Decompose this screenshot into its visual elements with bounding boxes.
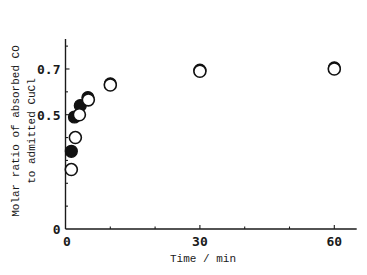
- y-tick-label: 0.7: [37, 62, 60, 77]
- open-circle-marker: [104, 79, 116, 91]
- open-circle-marker: [82, 94, 94, 106]
- scatter-chart: Molar ratio of absorbed CO to admitted C…: [0, 0, 367, 275]
- x-tick-label: 60: [326, 234, 342, 249]
- y-axis-title-line-1: Molar ratio of absorbed CO: [10, 45, 22, 217]
- open-circle-marker: [194, 65, 206, 77]
- tick-labels: 0306000.50.7: [37, 62, 342, 249]
- y-tick-label: 0: [53, 222, 61, 237]
- y-axis-title-line-2: to admitted CuCl: [26, 78, 38, 184]
- x-tick-label: 0: [63, 234, 71, 249]
- x-tick-label: 30: [192, 234, 208, 249]
- x-axis-title: Time / min: [170, 253, 236, 265]
- axes: [66, 39, 357, 229]
- y-tick-label: 0.5: [37, 108, 60, 123]
- data-markers: [65, 62, 340, 176]
- open-circle-marker: [65, 164, 77, 176]
- open-circle-marker: [328, 63, 340, 75]
- y-axis-title: Molar ratio of absorbed CO to admitted C…: [10, 45, 38, 217]
- open-circle-marker: [69, 132, 81, 144]
- open-circle-marker: [73, 109, 85, 121]
- filled-circle-marker: [65, 145, 77, 157]
